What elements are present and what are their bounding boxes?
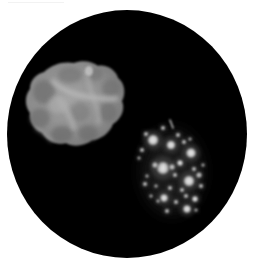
granule — [170, 165, 175, 170]
granule — [161, 126, 165, 130]
granule — [186, 148, 196, 158]
granule — [150, 195, 153, 198]
granule — [176, 133, 180, 137]
granule — [184, 176, 195, 187]
granule — [153, 163, 158, 168]
micrograph — [0, 0, 259, 270]
granule — [155, 185, 158, 188]
granule — [157, 200, 160, 203]
granule — [143, 182, 147, 186]
granule — [174, 200, 178, 204]
granule — [189, 138, 192, 141]
granule — [202, 164, 205, 167]
granule — [144, 132, 148, 136]
granule — [167, 141, 176, 150]
granule — [182, 140, 186, 144]
granule — [197, 173, 202, 178]
granule — [199, 184, 203, 188]
granule — [177, 160, 183, 166]
granule — [195, 209, 198, 212]
granule — [146, 175, 149, 178]
granule — [180, 188, 184, 192]
granule — [192, 196, 198, 202]
granule — [184, 194, 188, 198]
granule — [173, 173, 177, 177]
granule — [183, 205, 191, 213]
granule — [140, 148, 144, 152]
granule — [192, 167, 196, 171]
granule — [138, 157, 141, 160]
granule — [148, 135, 159, 146]
granule — [160, 194, 168, 202]
granule — [165, 209, 169, 213]
granule — [168, 186, 172, 190]
